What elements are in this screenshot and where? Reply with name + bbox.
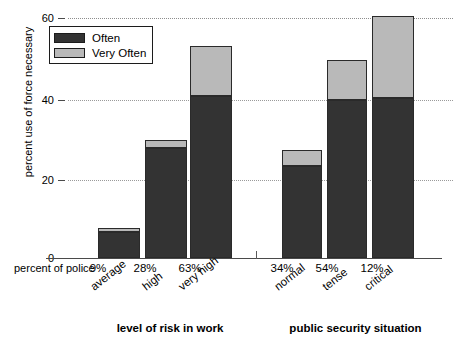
group-title-level-of-risk: level of risk in work — [95, 322, 245, 334]
y-tick-mark-40 — [58, 100, 65, 101]
y-tick-mark-60 — [58, 18, 65, 19]
bar-high[interactable] — [145, 140, 187, 258]
y-tick-label-40: 40 — [30, 94, 54, 106]
chart-container: percent use of force necessary 60 40 20 … — [0, 0, 465, 345]
bar-tense[interactable] — [327, 60, 367, 258]
group-separator-tick — [256, 251, 257, 259]
bar-high-segment-very-often — [145, 140, 187, 148]
percent-value-high: 28% — [122, 262, 168, 274]
legend-item-very-often[interactable]: Very Often — [54, 45, 146, 60]
bar-normal[interactable] — [282, 150, 322, 258]
bar-normal-segment-very-often — [282, 150, 322, 166]
bar-critical-segment-very-often — [372, 16, 414, 98]
bar-tense-segment-very-often — [327, 60, 367, 100]
legend-label-very-often: Very Often — [92, 47, 146, 59]
legend: Often Very Often — [49, 26, 153, 64]
y-tick-label-60: 60 — [30, 12, 54, 24]
group-title-public-security: public security situation — [268, 322, 443, 334]
bar-very-high-segment-very-often — [190, 46, 232, 96]
bar-average[interactable] — [98, 228, 140, 258]
legend-swatch-often-icon — [54, 33, 85, 43]
x-axis-line — [46, 258, 442, 259]
legend-label-often: Often — [92, 32, 120, 44]
y-tick-mark-20 — [58, 180, 65, 181]
bar-normal-segment-often — [282, 166, 322, 258]
bar-critical-segment-often — [372, 98, 414, 258]
y-tick-label-20: 20 — [30, 174, 54, 186]
legend-swatch-very-often-icon — [54, 48, 85, 58]
legend-item-often[interactable]: Often — [54, 30, 146, 45]
bar-critical[interactable] — [372, 16, 414, 258]
bar-very-high-segment-often — [190, 96, 232, 258]
bar-average-segment-often — [98, 232, 140, 258]
bar-very-high[interactable] — [190, 46, 232, 258]
bar-tense-segment-often — [327, 100, 367, 258]
bar-high-segment-often — [145, 148, 187, 258]
